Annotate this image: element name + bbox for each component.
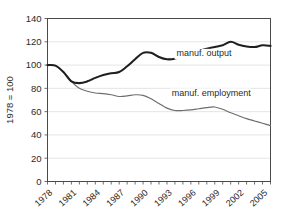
y-tick-label: 120 — [26, 36, 42, 47]
series-line-manuf-output — [48, 42, 271, 83]
y-axis-title: 1978 = 100 — [4, 76, 15, 124]
y-tick-label: 100 — [26, 59, 42, 70]
y-axis-ticks: 020406080100120140 — [26, 13, 48, 187]
y-tick-label: 0 — [36, 176, 41, 187]
x-tick-label: 1993 — [152, 188, 174, 209]
x-tick-label: 1978 — [33, 188, 55, 209]
y-tick-label: 20 — [31, 153, 42, 164]
chart-container: 020406080100120140 197819811984198719901… — [0, 0, 286, 217]
x-tick-label: 2005 — [248, 188, 270, 209]
x-tick-label: 1996 — [176, 188, 198, 209]
series-annotation-manuf-employment: manuf. employment — [172, 88, 252, 98]
x-axis-ticks: 1978198119841987199019931996199920022005 — [33, 182, 271, 209]
line-chart: 020406080100120140 197819811984198719901… — [0, 0, 286, 217]
series-annotation-manuf-output: manuf. output — [177, 48, 233, 58]
y-tick-label: 80 — [31, 83, 42, 94]
x-tick-label: 2002 — [224, 188, 246, 209]
y-tick-label: 40 — [31, 129, 42, 140]
y-tick-label: 140 — [26, 13, 42, 24]
series-annotations: manuf. outputmanuf. employment — [170, 48, 252, 99]
x-tick-label: 1990 — [128, 188, 150, 209]
x-tick-label: 1999 — [200, 188, 222, 209]
x-tick-label: 1984 — [81, 188, 103, 209]
x-tick-label: 1981 — [57, 188, 79, 209]
x-tick-label: 1987 — [104, 188, 126, 209]
y-tick-label: 60 — [31, 106, 42, 117]
